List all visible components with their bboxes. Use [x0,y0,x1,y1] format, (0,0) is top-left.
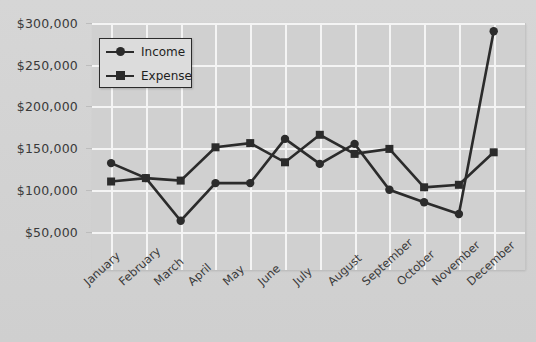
y-tick-label: $300,000 [17,16,78,31]
y-tick-mark [86,190,92,191]
y-tick-label: $250,000 [17,57,78,72]
data-point[interactable] [420,183,428,191]
data-point[interactable] [246,139,254,147]
legend-label-expense: Expense [141,69,192,83]
line-chart: $300,000$250,000$200,000$150,000$100,000… [0,0,536,342]
y-tick-label: $50,000 [25,224,78,239]
legend-item-income[interactable]: Income [100,39,191,64]
data-point[interactable] [420,198,428,206]
data-point[interactable] [385,145,393,153]
legend-item-expense[interactable]: Expense [100,63,191,88]
legend[interactable]: Income Expense [99,38,192,88]
y-axis: $300,000$250,000$200,000$150,000$100,000… [0,0,86,300]
data-point[interactable] [351,150,359,158]
data-point[interactable] [107,178,115,186]
y-tick-label: $100,000 [17,182,78,197]
data-point[interactable] [281,135,289,143]
y-tick-mark [86,23,92,24]
data-point[interactable] [177,177,185,185]
data-point[interactable] [350,140,358,148]
data-point[interactable] [212,143,220,151]
data-point[interactable] [142,174,150,182]
legend-label-income: Income [141,45,185,59]
y-tick-label: $200,000 [17,99,78,114]
data-point[interactable] [246,179,254,187]
income-line-marker-icon [106,45,134,59]
data-point[interactable] [107,159,115,167]
data-point[interactable] [316,160,324,168]
data-point[interactable] [385,186,393,194]
data-point[interactable] [455,210,463,218]
data-point[interactable] [316,131,324,139]
data-point[interactable] [490,27,498,35]
data-point[interactable] [490,148,498,156]
y-tick-mark [86,148,92,149]
y-tick-mark [86,232,92,233]
expense-line-marker-icon [106,69,134,83]
y-tick-mark [86,65,92,66]
data-point[interactable] [177,217,185,225]
data-point[interactable] [211,179,219,187]
data-point[interactable] [281,158,289,166]
data-point[interactable] [455,181,463,189]
y-tick-label: $150,000 [17,141,78,156]
series-line-expense [111,135,494,188]
y-tick-mark [86,106,92,107]
